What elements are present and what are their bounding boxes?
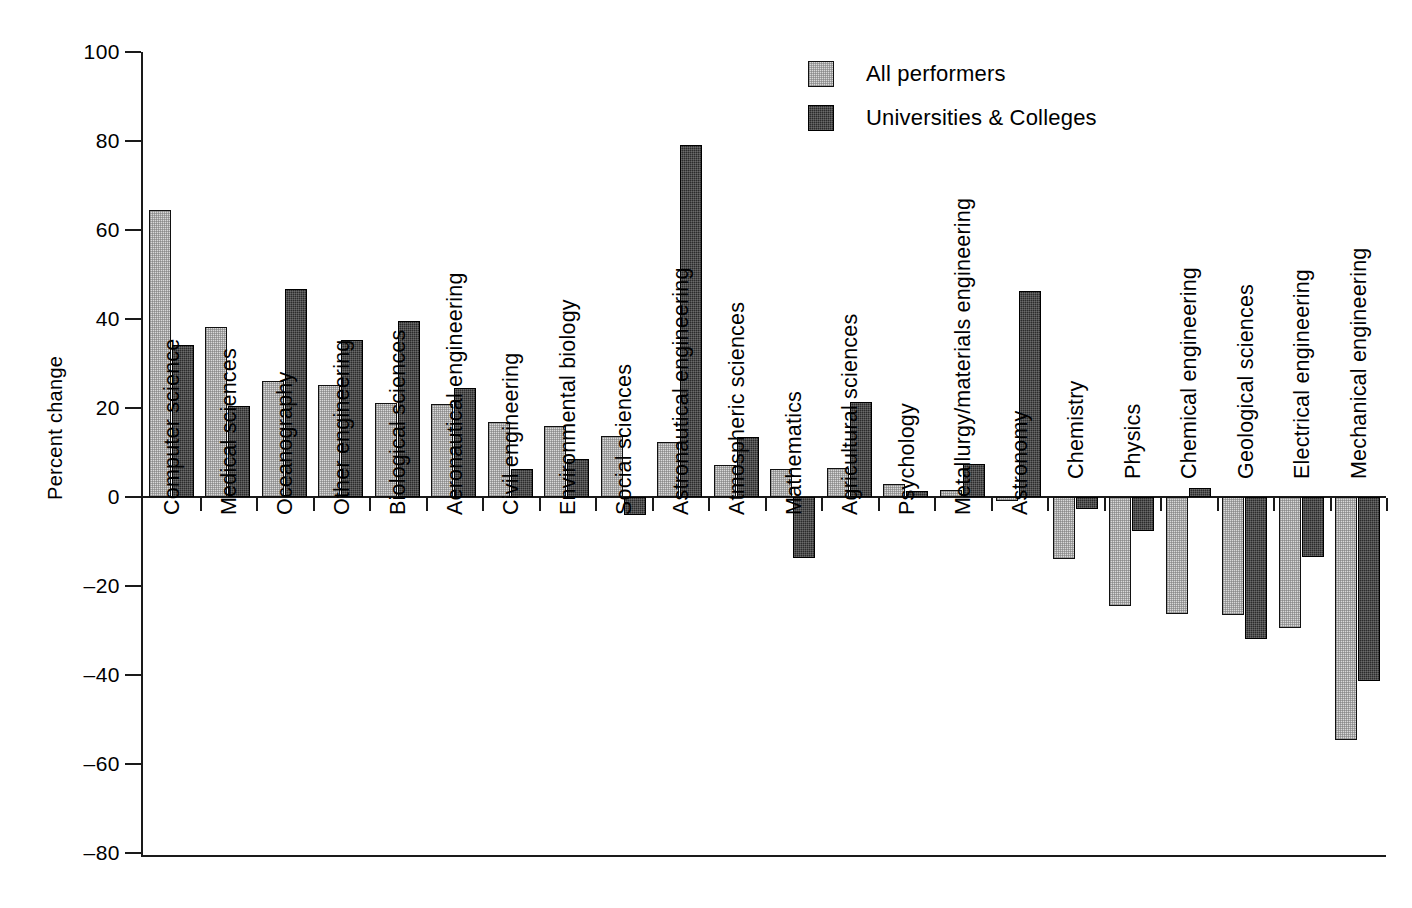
legend-swatch-dark-icon [808, 105, 834, 131]
category-label-19: Geological sciences [1236, 284, 1258, 479]
bar-light-19[interactable] [1222, 497, 1244, 615]
bar-light-20[interactable] [1279, 497, 1301, 628]
legend-item-universities-colleges[interactable]: Universities & Colleges [808, 96, 1097, 140]
category-label-15: Astronomy [1010, 410, 1032, 515]
bar-light-21[interactable] [1335, 497, 1357, 740]
category-label-10: Atmospheric sciences [727, 302, 749, 515]
category-label-9: Astronautical engineering [671, 267, 693, 515]
category-label-2: Oceanography [275, 372, 297, 515]
x-tick-11 [765, 498, 767, 511]
category-label-14: Metallurgy/materials engineering [953, 198, 975, 515]
bar-light-18[interactable] [1166, 497, 1188, 614]
category-label-1: Medical sciences [219, 348, 241, 515]
x-tick-9 [652, 498, 654, 511]
category-label-7: Environmental biology [558, 299, 580, 515]
x-tick-21 [1330, 498, 1332, 511]
category-label-4: Biological sciences [388, 330, 410, 515]
bar-dark-18[interactable] [1189, 488, 1211, 497]
category-label-8: Social sciences [614, 364, 636, 515]
category-label-12: Agricultural sciences [840, 314, 862, 515]
x-tick-14 [934, 498, 936, 511]
x-tick-19 [1217, 498, 1219, 511]
x-tick-16 [1047, 498, 1049, 511]
x-tick-20 [1273, 498, 1275, 511]
bar-dark-21[interactable] [1358, 497, 1380, 681]
bar-chart: 100806040200–20–40–60–80 Percent change … [0, 0, 1412, 908]
x-tick-18 [1160, 498, 1162, 511]
category-label-6: Civil engineering [501, 353, 523, 515]
x-tick-12 [821, 498, 823, 511]
legend-label-all-performers: All performers [866, 61, 1006, 87]
bar-dark-17[interactable] [1132, 497, 1154, 531]
category-label-5: Aeronautical engineering [445, 272, 467, 515]
chart-page: 100806040200–20–40–60–80 Percent change … [0, 0, 1412, 908]
bar-dark-16[interactable] [1076, 497, 1098, 509]
bar-dark-19[interactable] [1245, 497, 1267, 639]
x-tick-4 [369, 498, 371, 511]
legend-label-universities-colleges: Universities & Colleges [866, 105, 1097, 131]
bar-light-16[interactable] [1053, 497, 1075, 559]
x-tick-2 [256, 498, 258, 511]
bar-dark-20[interactable] [1302, 497, 1324, 557]
category-label-17: Physics [1123, 404, 1145, 479]
x-tick-1 [200, 498, 202, 511]
category-label-11: Mathematics [784, 391, 806, 515]
legend-swatch-light-icon [808, 61, 834, 87]
x-tick-17 [1104, 498, 1106, 511]
category-label-0: Computer science [162, 339, 184, 515]
x-tick-13 [878, 498, 880, 511]
x-tick-8 [595, 498, 597, 511]
bar-light-17[interactable] [1109, 497, 1131, 606]
x-tick-15 [991, 498, 993, 511]
x-tick-10 [708, 498, 710, 511]
x-tick-5 [426, 498, 428, 511]
legend-item-all-performers[interactable]: All performers [808, 52, 1097, 96]
x-tick-7 [539, 498, 541, 511]
legend: All performers Universities & Colleges [808, 52, 1097, 140]
x-tick-3 [313, 498, 315, 511]
category-label-20: Electrical engineering [1292, 269, 1314, 479]
category-label-13: Psychology [897, 403, 919, 515]
x-tick-6 [482, 498, 484, 511]
x-tick-22 [1386, 498, 1388, 511]
category-label-3: Other engineering [332, 339, 354, 515]
category-label-16: Chemistry [1066, 380, 1088, 479]
category-label-18: Chemical engineering [1179, 267, 1201, 479]
category-label-21: Mechanical engineering [1349, 248, 1371, 480]
